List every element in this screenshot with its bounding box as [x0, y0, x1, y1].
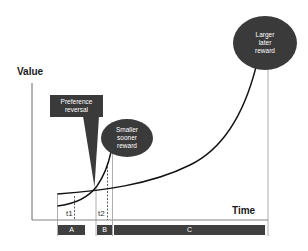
t2-label: t2 [98, 209, 105, 218]
t1-label: t1 [66, 209, 73, 218]
preference-reversal-pointer [83, 116, 99, 187]
phase-c-label: C [114, 225, 265, 235]
smaller-sooner-line3: reward [101, 142, 153, 150]
smaller-sooner-line2: sooner [101, 134, 153, 142]
larger-later-reward-label: Larger later reward [233, 31, 297, 55]
smaller-sooner-line1: Smaller [101, 126, 153, 134]
preference-reversal-line2: reversal [50, 106, 103, 114]
phase-a-label: A [58, 225, 85, 235]
preference-reversal-line1: Preference [50, 98, 103, 106]
phase-b-label: B [97, 225, 112, 235]
preference-reversal-diagram: Value Time Preference reversal Smaller s… [0, 0, 308, 251]
smaller-sooner-reward-label: Smaller sooner reward [101, 126, 153, 150]
x-axis-label: Time [232, 205, 255, 216]
larger-later-line1: Larger [233, 31, 297, 39]
y-axis-label: Value [17, 66, 43, 77]
smaller-sooner-value-curve [58, 152, 112, 206]
larger-later-line3: reward [233, 47, 297, 55]
larger-later-line2: later [233, 39, 297, 47]
preference-reversal-label: Preference reversal [50, 98, 103, 114]
